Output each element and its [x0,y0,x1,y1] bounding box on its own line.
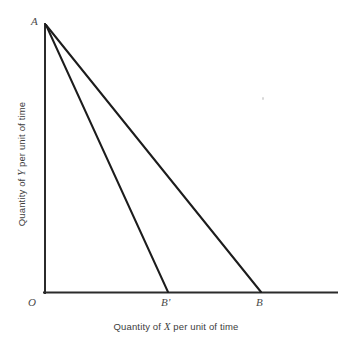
y-axis-title-prefix: Quantity of [16,176,27,226]
plot-area [0,0,352,343]
budget-constraint-figure: A O B' B Quantity of X per unit of time … [0,0,352,343]
point-label-b-prime: B' [161,297,170,308]
point-label-a: A [31,16,38,27]
x-axis-title: Quantity of X per unit of time [0,321,352,332]
y-axis-title: Quantity of Y per unit of time [16,34,30,294]
x-axis-title-prefix: Quantity of [114,321,164,332]
budget-line-inner [46,25,168,292]
x-axis-title-suffix: per unit of time [170,321,238,332]
page-speck [262,97,264,100]
y-axis-title-suffix: per unit of time [16,102,27,170]
point-label-b: B [256,297,263,308]
budget-line-outer [46,25,261,292]
point-label-origin: O [28,297,36,308]
y-axis-variable: Y [16,170,27,176]
